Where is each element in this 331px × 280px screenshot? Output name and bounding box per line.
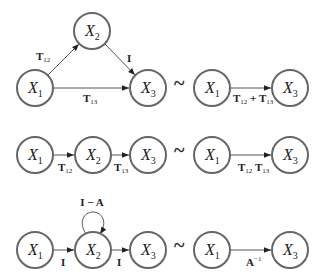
node-x2: X2: [75, 232, 111, 268]
row-3-left-graph: I − A I I X1 X2 X3: [17, 196, 166, 268]
node-x3: X3: [272, 137, 308, 173]
self-loop-x2: [82, 212, 103, 234]
node-x1: X1: [17, 232, 53, 268]
node-x1: X1: [194, 232, 230, 268]
equivalence-symbol: ~: [174, 234, 185, 256]
edge-label-t12-t13: T12 T13: [238, 161, 270, 175]
edge-label-t12: T12: [36, 50, 51, 64]
node-x3: X3: [130, 137, 166, 173]
node-x1: X1: [194, 70, 230, 106]
edge-label-t12-plus-t13: T12 + T13: [233, 92, 274, 106]
edge-label-t12: T12: [58, 161, 73, 175]
node-x2: X2: [74, 13, 110, 49]
node-x3: X3: [272, 232, 308, 268]
edge-label-a-inverse: A−1: [246, 255, 262, 268]
graph-equivalence-diagram: T12 I T13 X1 X2 X3 ~ T12 + T13 X1 X3: [0, 0, 331, 280]
row-3-right-graph: A−1 X1 X3: [194, 232, 308, 268]
node-x3: X3: [130, 70, 166, 106]
edge-label-t13: T13: [114, 161, 129, 175]
edge-label-t13: T13: [83, 92, 98, 106]
node-x3: X3: [272, 70, 308, 106]
row-1-right-graph: T12 + T13 X1 X3: [194, 70, 308, 106]
edge-label-i-minus-a: I − A: [80, 196, 103, 208]
row-2-right-graph: T12 T13 X1 X3: [194, 137, 308, 175]
equivalence-symbol: ~: [174, 139, 185, 161]
node-x2: X2: [75, 137, 111, 173]
edge-label-i: I: [61, 256, 65, 268]
node-x3: X3: [130, 232, 166, 268]
node-x1: X1: [194, 137, 230, 173]
edge-x1-x2: [48, 44, 79, 75]
node-x1: X1: [17, 137, 53, 173]
edge-label-i: I: [127, 52, 131, 64]
row-1-left-graph: T12 I T13 X1 X2 X3: [17, 13, 166, 106]
edge-label-i: I: [117, 256, 121, 268]
node-x1: X1: [17, 70, 53, 106]
row-2-left-graph: T12 T13 X1 X2 X3: [17, 137, 166, 175]
equivalence-symbol: ~: [174, 72, 185, 94]
